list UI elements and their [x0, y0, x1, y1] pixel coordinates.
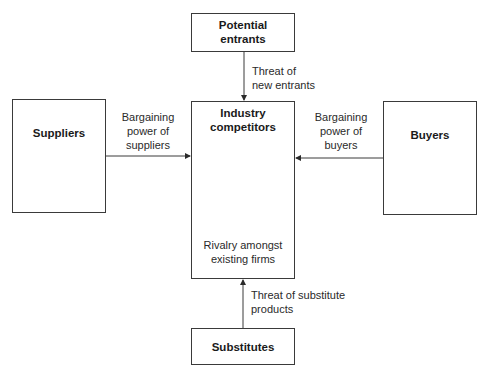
node-industry-title-2: competitors — [192, 120, 294, 134]
node-industry-competitors: Industry competitors Rivalry amongst exi… — [191, 101, 295, 279]
node-buyers-title: Buyers — [384, 128, 476, 142]
node-potential-entrants-title-2: entrants — [192, 32, 294, 46]
label-buyer-power-2: power of — [303, 124, 379, 138]
node-substitutes: Substitutes — [191, 328, 295, 365]
label-supplier-power-3: suppliers — [110, 138, 186, 152]
label-supplier-power-1: Bargaining — [110, 110, 186, 124]
label-threat-new-entrants-1: Threat of — [252, 64, 296, 78]
node-buyers: Buyers — [383, 101, 477, 215]
label-threat-substitutes-2: products — [251, 302, 293, 316]
node-potential-entrants: Potential entrants — [191, 13, 295, 52]
node-suppliers: Suppliers — [12, 99, 106, 213]
label-threat-new-entrants-2: new entrants — [252, 78, 315, 92]
node-suppliers-title: Suppliers — [13, 126, 105, 140]
label-supplier-power-2: power of — [110, 124, 186, 138]
label-threat-substitutes-1: Threat of substitute — [251, 288, 345, 302]
node-potential-entrants-title-1: Potential — [192, 18, 294, 32]
node-industry-caption-1: Rivalry amongst — [192, 238, 294, 252]
label-buyer-power-1: Bargaining — [303, 110, 379, 124]
node-industry-title-1: Industry — [192, 106, 294, 120]
node-industry-caption-2: existing firms — [192, 252, 294, 266]
node-substitutes-title: Substitutes — [192, 340, 294, 354]
label-buyer-power-3: buyers — [303, 138, 379, 152]
